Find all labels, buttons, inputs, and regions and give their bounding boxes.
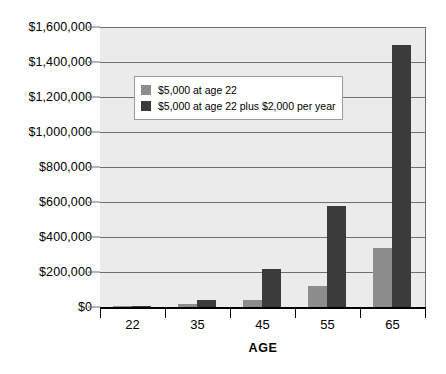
y-axis-tick-label: $400,000 [39, 230, 92, 244]
bar-cluster [360, 27, 425, 307]
y-axis-tick-mark [88, 202, 100, 203]
bar [197, 300, 216, 307]
y-axis-tick-mark [88, 97, 100, 98]
y-axis-tick-label: $1,200,000 [28, 90, 92, 104]
legend-label-series-1: $5,000 at age 22 plus $2,000 per year [158, 100, 335, 112]
y-axis-tick-label: $1,600,000 [28, 20, 92, 34]
bar-cluster [100, 27, 165, 307]
bars-layer [100, 27, 425, 307]
x-axis-category-label: 55 [320, 317, 334, 332]
chart-legend: $5,000 at age 22 $5,000 at age 22 plus $… [134, 76, 343, 120]
bar [243, 300, 262, 307]
y-axis-tick-mark [88, 62, 100, 63]
legend-swatch-icon-series-1 [141, 101, 151, 111]
legend-swatch-icon-series-0 [141, 85, 151, 95]
bar [308, 286, 327, 307]
y-axis-tick-label: $1,400,000 [28, 55, 92, 69]
y-axis-tick-mark [88, 167, 100, 168]
bar-cluster [230, 27, 295, 307]
bar-chart: $0$200,000$400,000$600,000$800,000$1,000… [0, 0, 446, 374]
x-axis-title: AGE [100, 341, 426, 355]
x-axis-labels: 2235455565 [100, 317, 426, 337]
y-axis-tick-label: $200,000 [39, 265, 92, 279]
bar [373, 248, 392, 308]
bar-cluster [165, 27, 230, 307]
x-axis-category-label: 35 [190, 317, 204, 332]
x-axis-category-label: 65 [385, 317, 399, 332]
x-axis-category-label: 22 [125, 317, 139, 332]
plot-right-border [425, 27, 426, 307]
y-axis-tick-mark [88, 307, 100, 308]
y-axis-labels: $0$200,000$400,000$600,000$800,000$1,000… [0, 0, 96, 374]
y-axis-tick-mark [88, 27, 100, 28]
y-axis-tick-label: $600,000 [39, 195, 92, 209]
bar [262, 269, 281, 308]
y-axis-tick-mark [88, 132, 100, 133]
bar-cluster [295, 27, 360, 307]
y-axis-tick-label: $800,000 [39, 160, 92, 174]
bar [327, 206, 346, 308]
legend-label-series-0: $5,000 at age 22 [158, 84, 237, 96]
y-axis-tick-mark [88, 237, 100, 238]
legend-item-1: $5,000 at age 22 plus $2,000 per year [141, 98, 335, 114]
x-axis-category-label: 45 [255, 317, 269, 332]
legend-item-0: $5,000 at age 22 [141, 82, 335, 98]
y-axis-tick-label: $1,000,000 [28, 125, 92, 139]
y-axis-tick-mark [88, 272, 100, 273]
bar [392, 45, 411, 308]
